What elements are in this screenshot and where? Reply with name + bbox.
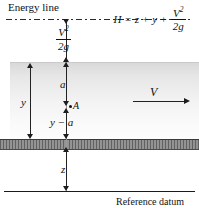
equation-plus-1: + bbox=[140, 13, 150, 25]
point-a-marker bbox=[69, 105, 72, 108]
elevation-z-arrow-shaft bbox=[66, 151, 67, 187]
reference-datum-line bbox=[4, 191, 195, 192]
depth-y-minus-a-label: y − a bbox=[50, 117, 73, 128]
equation-term-z: z bbox=[133, 13, 140, 25]
depth-y-arrow-shaft bbox=[30, 67, 31, 135]
energy-line-label: Energy line bbox=[8, 2, 59, 13]
velocity-head-denominator: 2g bbox=[56, 40, 71, 52]
velocity-head-numerator: V2 bbox=[56, 25, 71, 38]
depth-y-arrowhead-bottom bbox=[27, 134, 33, 139]
reference-datum-label: Reference datum bbox=[116, 197, 184, 207]
equation-equals: = bbox=[123, 13, 133, 25]
depth-y-label: y bbox=[21, 97, 26, 108]
equation-velocity-head-fraction: V2 2g bbox=[171, 6, 186, 32]
depth-a-arrow-shaft bbox=[66, 66, 67, 105]
depth-y-minus-a-arrowhead-bottom bbox=[63, 134, 69, 139]
water-surface-line bbox=[10, 62, 199, 63]
velocity-arrow-shaft bbox=[133, 101, 185, 102]
equation-frac-numerator: V2 bbox=[171, 6, 186, 19]
velocity-label: V bbox=[150, 86, 157, 98]
velocity-arrowhead bbox=[184, 98, 190, 104]
equation-term-y: y bbox=[151, 13, 159, 25]
point-a-label: A bbox=[73, 101, 79, 111]
equation-plus-2: + bbox=[159, 13, 169, 25]
elevation-z-label: z bbox=[61, 164, 65, 175]
equation-lhs: H bbox=[112, 13, 123, 25]
equation-frac-denominator: 2g bbox=[171, 20, 186, 32]
energy-equation: H = z + y + V2 2g bbox=[112, 6, 186, 32]
energy-line-diagram: Energy line V2 2g H = z + y + V2 2g a bbox=[0, 0, 199, 208]
depth-a-label: a bbox=[60, 79, 66, 90]
elevation-z-arrowhead-bottom bbox=[63, 186, 69, 191]
velocity-head-fraction: V2 2g bbox=[56, 25, 71, 52]
channel-bed bbox=[0, 139, 199, 150]
